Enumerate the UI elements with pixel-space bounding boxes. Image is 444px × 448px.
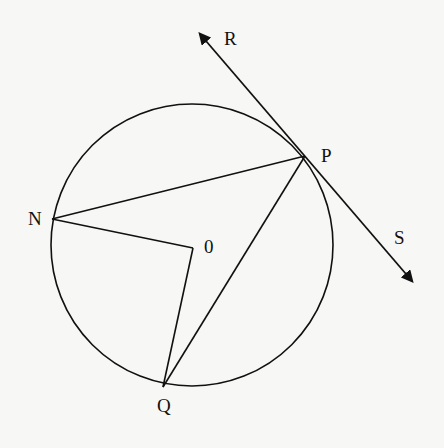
geometry-figure: R P N 0 S Q: [0, 0, 444, 448]
label-r: R: [224, 28, 237, 49]
tangent-line-rs: [200, 34, 412, 281]
label-p: P: [321, 145, 332, 166]
diagram-canvas: R P N 0 S Q: [0, 0, 444, 448]
circle: [51, 104, 333, 386]
label-n: N: [28, 208, 42, 229]
label-o: 0: [204, 236, 214, 257]
label-q: Q: [157, 395, 171, 416]
label-s: S: [394, 227, 405, 248]
radius-on: [52, 219, 193, 248]
radius-oq: [163, 248, 193, 387]
chord-pn: [52, 156, 305, 219]
